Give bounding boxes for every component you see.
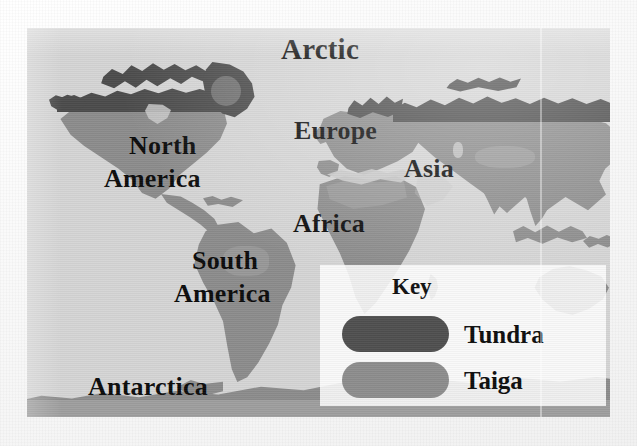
taiga-color-swatch <box>342 362 449 398</box>
map-label-europe: Europe <box>294 118 377 144</box>
indonesia-islands <box>513 224 587 248</box>
arctic-islands-siberia <box>445 76 521 94</box>
slide-canvas: Arctic North America Europe Asia Africa … <box>0 0 637 446</box>
map-legend: Key Tundra Taiga <box>320 265 606 406</box>
map-label-arctic: Arctic <box>281 35 359 64</box>
tundra-color-swatch <box>342 316 449 352</box>
caspian-sea <box>453 142 463 158</box>
map-label-africa: Africa <box>293 211 365 237</box>
legend-item-tundra: Tundra <box>342 316 544 352</box>
map-label-asia: Asia <box>404 156 454 182</box>
siberia-tundra-band <box>393 90 610 122</box>
map-label-north-america: America <box>104 166 201 192</box>
greenland-ice-cap <box>211 76 241 106</box>
map-label-north: North <box>129 133 196 159</box>
scan-seam-artifact <box>540 28 542 417</box>
legend-item-taiga: Taiga <box>342 362 523 398</box>
legend-title: Key <box>392 275 432 298</box>
central-asia-desert <box>475 146 535 168</box>
new-guinea <box>583 234 610 250</box>
caribbean-islands <box>203 196 243 207</box>
map-label-south: South <box>192 248 258 274</box>
tundra-label: Tundra <box>464 322 544 347</box>
map-label-south-america: America <box>174 281 271 307</box>
taiga-label: Taiga <box>464 368 523 393</box>
map-label-antarctica: Antarctica <box>88 374 208 400</box>
